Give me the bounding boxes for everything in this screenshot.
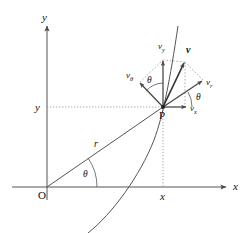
radius-label: r xyxy=(94,139,98,149)
parallelogram-edge-right xyxy=(185,62,203,80)
vector-label-v-y: vy xyxy=(158,42,165,53)
origin-label: O xyxy=(38,190,46,201)
vector-label-v: v xyxy=(186,45,190,55)
theta-label-origin: θ xyxy=(83,170,88,180)
vector-label-v-r: vr xyxy=(206,78,213,89)
vector-label-v-theta: vθ xyxy=(126,71,133,82)
y-tick-label: y xyxy=(35,102,40,113)
radius-line xyxy=(47,107,163,187)
point-p-label: P xyxy=(159,110,165,121)
theta-label-upper: θ xyxy=(147,76,152,86)
vector-label-v-x: vx xyxy=(190,104,197,115)
y-axis-label: y xyxy=(42,12,47,23)
theta-arc-origin xyxy=(88,158,97,187)
vector-label-v-y-sub: y xyxy=(162,46,165,53)
vector-label-v-x-sub: x xyxy=(194,108,197,115)
parallelogram-edge-top xyxy=(163,60,185,62)
vector-label-v-theta-sub: θ xyxy=(130,75,133,82)
vector-label-v-r-sub: r xyxy=(210,82,213,89)
theta-label-lower: θ xyxy=(196,93,201,103)
figure-canvas: y x O y x P r θ θ θ v vy vx vr vθ xyxy=(0,0,250,233)
x-tick-label: x xyxy=(160,191,165,202)
x-axis-label: x xyxy=(233,181,238,192)
